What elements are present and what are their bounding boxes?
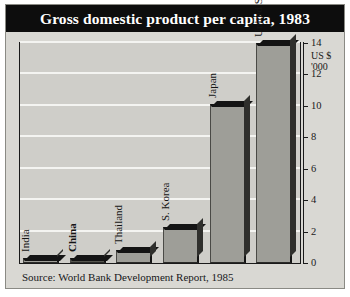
bar-side-face — [197, 218, 203, 257]
bar — [256, 43, 292, 263]
bar-side-face — [290, 34, 296, 257]
y-axis-unit-label: US $ '000 — [311, 51, 331, 72]
plot-area: IndiaChinaThailandS. KoreaJapanUnited St… — [19, 42, 301, 264]
bar — [23, 258, 59, 263]
y-tick-mark — [303, 137, 308, 138]
bar-category-label: United States — [252, 0, 264, 37]
y-axis-unit-line1: US $ — [311, 51, 331, 62]
y-tick-label: 14 — [311, 38, 322, 49]
y-tick-mark — [303, 232, 308, 233]
y-tick-label: 4 — [311, 195, 316, 206]
y-axis-unit-line2: '000 — [311, 62, 331, 73]
y-tick-mark — [303, 200, 308, 201]
bar — [70, 258, 106, 263]
bar-category-label: China — [66, 224, 78, 253]
chart-body: IndiaChinaThailandS. KoreaJapanUnited St… — [6, 32, 344, 288]
y-tick-mark — [303, 74, 308, 75]
bar-category-label: S. Korea — [159, 182, 171, 221]
bar-side-face — [244, 95, 250, 257]
y-tick-mark — [303, 263, 308, 264]
page-title: Gross domestic product per capita, 1983 — [40, 10, 310, 28]
bar-category-label: Thailand — [112, 205, 124, 244]
bars-layer: IndiaChinaThailandS. KoreaJapanUnited St… — [20, 43, 300, 263]
bar — [210, 104, 246, 263]
y-tick-label: 8 — [311, 132, 316, 143]
bar-top-face — [71, 255, 113, 261]
y-tick-mark — [303, 106, 308, 107]
bar-category-label: India — [19, 230, 31, 253]
y-tick-label: 10 — [311, 101, 322, 112]
y-tick-label: 6 — [311, 164, 316, 175]
bar — [163, 227, 199, 263]
y-axis: 02468101214 US $ '000 — [303, 42, 343, 264]
source-note: Source: World Bank Development Report, 1… — [22, 271, 234, 283]
bar — [116, 250, 152, 263]
bar-side-face — [150, 241, 156, 257]
y-tick-mark — [303, 43, 308, 44]
chart-figure: Gross domestic product per capita, 1983 … — [5, 4, 345, 289]
plot-inner: IndiaChinaThailandS. KoreaJapanUnited St… — [20, 43, 300, 263]
screenshot-root: Gross domestic product per capita, 1983 … — [0, 0, 350, 297]
bar-top-face — [24, 255, 66, 261]
chart-title-bar: Gross domestic product per capita, 1983 — [6, 5, 344, 32]
y-tick-label: 2 — [311, 227, 316, 238]
bar-category-label: Japan — [206, 73, 218, 98]
y-tick-label: 0 — [311, 258, 316, 269]
y-tick-mark — [303, 169, 308, 170]
